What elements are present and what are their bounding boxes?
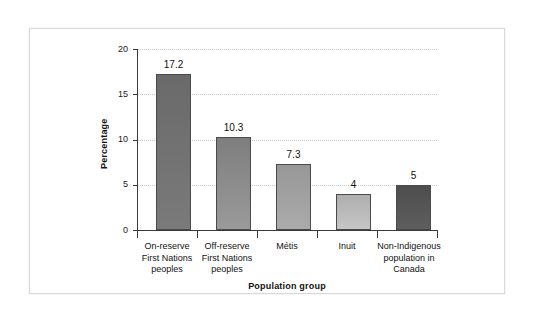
y-tick-label-0: 0 bbox=[110, 226, 128, 235]
bar-value-label-2: 7.3 bbox=[276, 150, 311, 160]
bar-metis bbox=[276, 164, 311, 230]
bar-value-label-0: 17.2 bbox=[156, 60, 191, 70]
bar-on-reserve-first-nations-peoples bbox=[156, 74, 191, 230]
bar-value-label-1: 10.3 bbox=[216, 123, 251, 133]
y-tick-label-20: 20 bbox=[110, 45, 128, 54]
y-tick-mark-5 bbox=[133, 185, 138, 186]
x-divider-4 bbox=[377, 230, 378, 238]
x-divider-3 bbox=[317, 230, 318, 238]
x-divider-2 bbox=[257, 230, 258, 238]
plot-area: 17.2 10.3 7.3 4 5 bbox=[137, 49, 437, 230]
gridline-20 bbox=[137, 49, 437, 50]
bar-value-label-4: 5 bbox=[396, 171, 431, 181]
x-divider-0 bbox=[137, 230, 138, 238]
y-tick-mark-15 bbox=[133, 94, 138, 95]
y-tick-label-5: 5 bbox=[110, 180, 128, 189]
bar-non-indigenous-population-in-canada bbox=[396, 185, 431, 230]
bar-value-label-3: 4 bbox=[336, 180, 371, 190]
x-divider-1 bbox=[197, 230, 198, 238]
category-label-non-indigenous-population-in-canada: Non-Indigenous population in Canada bbox=[363, 241, 455, 276]
y-tick-mark-20 bbox=[133, 49, 138, 50]
bar-off-reserve-first-nations-peoples bbox=[216, 137, 251, 230]
y-axis-title: Percentage bbox=[97, 109, 111, 179]
x-axis-line bbox=[137, 230, 437, 231]
chart-figure: 17.2 10.3 7.3 4 5 20 15 10 5 0 On-reserv… bbox=[0, 0, 533, 320]
x-axis-title: Population group bbox=[137, 281, 437, 291]
x-divider-5 bbox=[437, 230, 438, 238]
bar-inuit bbox=[336, 194, 371, 230]
y-axis-line bbox=[137, 49, 138, 230]
y-tick-label-15: 15 bbox=[110, 90, 128, 99]
y-tick-label-10: 10 bbox=[110, 135, 128, 144]
y-tick-mark-10 bbox=[133, 140, 138, 141]
